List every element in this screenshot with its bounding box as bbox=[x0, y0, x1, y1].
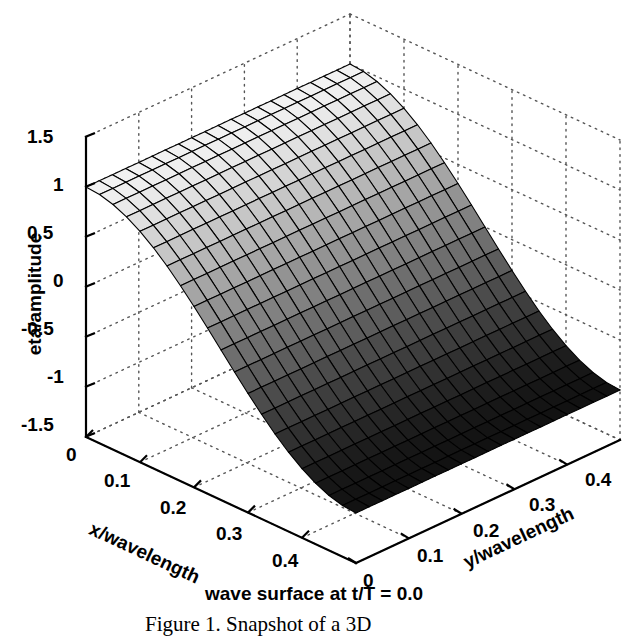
y-tick-label: 0.4 bbox=[585, 469, 611, 491]
x-tick-label: 0.2 bbox=[160, 497, 186, 519]
z-tick-label: 1.5 bbox=[27, 126, 53, 148]
plot-subcaption: wave surface at t/T = 0.0 bbox=[205, 583, 423, 605]
wave-surface-mesh bbox=[86, 64, 620, 513]
x-tick-label: 0.1 bbox=[104, 470, 130, 492]
x-tick-label: 0.4 bbox=[272, 550, 298, 572]
z-tick-label: -1 bbox=[47, 366, 64, 388]
x-tick-label: 0.3 bbox=[216, 523, 242, 545]
y-tick-label: 0.1 bbox=[417, 545, 443, 567]
z-tick-label: -1.5 bbox=[21, 414, 54, 436]
x-tick-label: 0 bbox=[66, 444, 77, 466]
z-axis-label: eta/amplitude bbox=[24, 214, 46, 374]
z-tick-label: 1 bbox=[53, 174, 64, 196]
z-tick-label: 0 bbox=[53, 270, 64, 292]
figure-caption: Figure 1. Snapshot of a 3D bbox=[145, 612, 371, 637]
